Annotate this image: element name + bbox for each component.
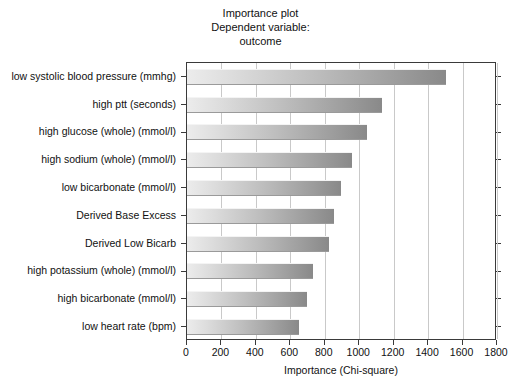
bar-slot [187,258,497,286]
x-axis-tick-label: 400 [246,346,264,358]
x-axis-tick [186,340,187,345]
bar-slot [187,63,497,91]
chart-title-block: Importance plot Dependent variable: outc… [0,6,521,48]
gridline [497,63,498,339]
bar-slot [187,146,497,174]
x-axis-tick [255,340,256,345]
y-axis-label: high sodium (whole) (mmol/l) [0,145,180,173]
bar[interactable] [187,69,446,85]
x-axis-tick-labels: 020040060080010001200140016001800 [0,346,521,360]
bar[interactable] [187,180,341,196]
y-axis-labels: low systolic blood pressure (mmhg)high p… [0,62,180,340]
chart-title: Importance plot [0,6,521,20]
bar[interactable] [187,291,307,307]
y-axis-label: low bicarbonate (mmol/l) [0,173,180,201]
y-axis-label: high bicarbonate (mmol/l) [0,284,180,312]
bar[interactable] [187,152,352,168]
x-axis-tick [324,340,325,345]
x-axis-tick-label: 1800 [484,346,507,358]
bar[interactable] [187,319,299,335]
bar[interactable] [187,97,382,113]
x-axis-tick-label: 200 [212,346,230,358]
x-axis-tick-label: 0 [183,346,189,358]
bar-slot [187,313,497,341]
x-axis-tick [496,340,497,345]
bar[interactable] [187,124,367,140]
bar-slot [187,119,497,147]
y-axis-label: high ptt (seconds) [0,90,180,118]
x-axis-tick-label: 1600 [450,346,473,358]
y-axis-label: high glucose (whole) (mmol/l) [0,118,180,146]
x-axis-tick-label: 1000 [347,346,370,358]
x-axis-title: Importance (Chi-square) [186,364,496,376]
y-axis-label: Derived Base Excess [0,201,180,229]
y-axis-label: high potassium (whole) (mmol/l) [0,257,180,285]
y-axis-label: low heart rate (bpm) [0,312,180,340]
plot-area [186,62,496,340]
bar-slot [187,230,497,258]
bar-slot [187,91,497,119]
x-axis-tick-label: 600 [281,346,299,358]
x-axis-ticks [186,340,497,345]
x-axis-tick [462,340,463,345]
x-axis-tick [289,340,290,345]
bar-slot [187,202,497,230]
bar[interactable] [187,236,329,252]
bar-series [187,63,495,339]
y-axis-label: low systolic blood pressure (mmhg) [0,62,180,90]
chart-subtitle: Dependent variable: [0,20,521,34]
x-axis-tick-label: 1400 [415,346,438,358]
bar-slot [187,285,497,313]
y-axis-label: Derived Low Bicarb [0,229,180,257]
bar[interactable] [187,208,334,224]
bar[interactable] [187,263,313,279]
x-axis-tick-label: 800 [315,346,333,358]
x-axis-tick [393,340,394,345]
chart-dependent-variable-value: outcome [0,34,521,48]
bar-slot [187,174,497,202]
x-axis-tick [358,340,359,345]
x-axis-tick [220,340,221,345]
x-axis-tick [427,340,428,345]
x-axis-tick-label: 1200 [381,346,404,358]
